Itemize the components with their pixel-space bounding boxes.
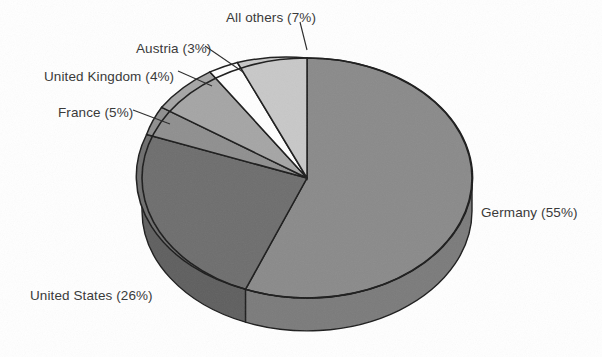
slice-label-all-others: All others (7%) <box>226 10 316 25</box>
pie-slices <box>136 57 472 298</box>
pie-chart-figure: All others (7%) Austria (3%) United King… <box>0 0 602 357</box>
slice-label-united-states: United States (26%) <box>30 288 153 303</box>
slice-label-austria: Austria (3%) <box>136 41 211 56</box>
slice-label-united-kingdom: United Kingdom (4%) <box>44 69 174 84</box>
slice-label-france: France (5%) <box>58 105 133 120</box>
pie-chart-canvas <box>0 0 602 357</box>
slice-label-germany: Germany (55%) <box>481 205 578 220</box>
leader-line-all-others <box>300 22 307 50</box>
